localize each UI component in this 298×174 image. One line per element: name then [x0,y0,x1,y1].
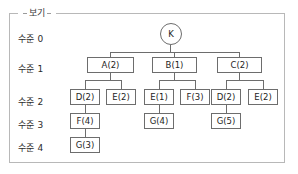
connector-a-to-d [85,80,86,89]
connector-af-to-ag [85,129,86,137]
connector-level1-bus [110,52,240,53]
connector-b-bus [159,80,195,81]
connector-c-to-e [263,80,264,89]
diagram-screen: 보기 수준 0수준 1수준 2수준 3수준 4 KA(2)B(1)C(2)D(2… [0,0,298,174]
tree-node-root[interactable]: K [160,23,182,45]
connector-a-to-e [121,80,122,89]
tree-node-c[interactable]: C(2) [217,57,262,73]
level-label-2: 수준 2 [18,95,43,108]
level-label-0: 수준 0 [18,32,43,45]
connector-a-stem [110,73,111,80]
tree-node-b[interactable]: B(1) [152,57,197,73]
connector-cd-to-cg [226,105,227,113]
connector-ad-to-af [85,105,86,113]
connector-c-to-d [226,80,227,89]
level-label-1: 수준 1 [18,62,43,75]
tree-node-a-d[interactable]: D(2) [70,89,100,105]
legend-label: 보기 [29,8,45,18]
connector-b-to-f [195,80,196,89]
tree-node-c-e[interactable]: E(2) [248,89,278,105]
tree-node-b-e-g[interactable]: G(4) [144,113,174,129]
connector-b-stem [174,73,175,80]
connector-be-to-bg [159,105,160,113]
tree-node-c-d-g[interactable]: G(5) [211,113,241,129]
tree-node-a-d-f-g[interactable]: G(3) [70,137,100,153]
connector-root-bus-stem [170,52,171,53]
connector-b-to-e [159,80,160,89]
tree-node-b-f[interactable]: F(3) [180,89,210,105]
tree-node-a-e[interactable]: E(2) [106,89,136,105]
group-box-legend: 보기 [18,7,56,19]
connector-a-bus [85,80,121,81]
connector-c-stem [239,73,240,80]
legend-left-dash [23,13,27,14]
level-label-4: 수준 4 [18,141,43,154]
tree-node-a-d-f[interactable]: F(4) [70,113,100,129]
level-label-3: 수준 3 [18,118,43,131]
group-box [9,13,285,163]
tree-node-b-e[interactable]: E(1) [144,89,174,105]
legend-right-dash [47,13,51,14]
tree-node-c-d[interactable]: D(2) [211,89,241,105]
connector-c-bus [226,80,263,81]
tree-node-a[interactable]: A(2) [87,57,134,73]
